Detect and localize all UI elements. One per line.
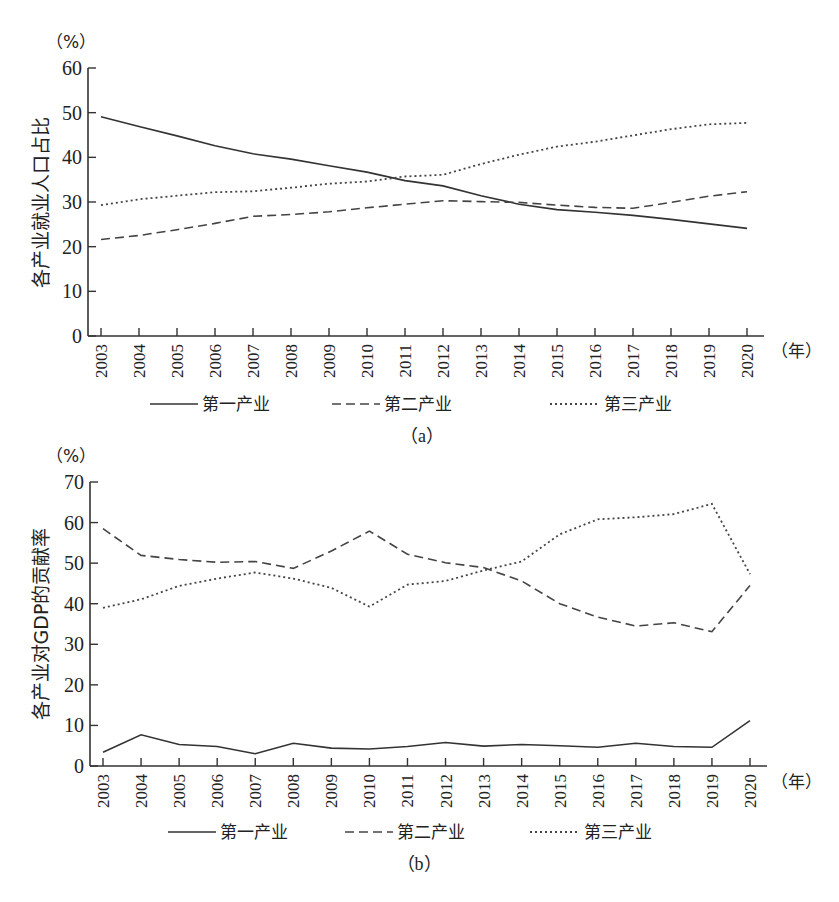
x-tick-label: 2008 xyxy=(284,774,303,808)
x-tick-label: 2007 xyxy=(244,344,263,379)
x-tick-label: 2017 xyxy=(624,344,643,379)
x-tick-label: 2013 xyxy=(475,774,494,808)
legend-label: 第二产业 xyxy=(384,394,452,414)
x-unit-label-a: （年） xyxy=(771,341,822,361)
legend-b: 第一产业第二产业第三产业 xyxy=(168,822,652,842)
legend-item: 第二产业 xyxy=(332,394,452,414)
x-tick-label: 2006 xyxy=(206,344,225,378)
x-tick-label: 2020 xyxy=(738,344,757,378)
legend-a: 第一产业第二产业第三产业 xyxy=(150,394,672,414)
legend-label: 第一产业 xyxy=(202,394,270,414)
series-line-dotted xyxy=(103,504,750,608)
y-tick-label: 10 xyxy=(62,280,82,302)
series-line-dashed xyxy=(103,529,750,632)
y-tick-label: 0 xyxy=(74,755,84,777)
y-axis-title-b: 各产业对GDP的贡献率 xyxy=(30,528,52,721)
legend-item: 第三产业 xyxy=(530,822,652,842)
y-tick-label: 50 xyxy=(64,552,84,574)
x-tick-label: 2016 xyxy=(586,344,605,378)
x-axis-b: 2003200420052006200720082009201020112012… xyxy=(90,758,767,808)
series-line-solid xyxy=(103,721,750,754)
y-tick-label: 50 xyxy=(62,102,82,124)
legend-item: 第一产业 xyxy=(168,822,288,842)
y-unit-label-b: （%） xyxy=(46,446,96,466)
chart-a-employment-share: （%） 0102030405060 2003200420052006200720… xyxy=(30,32,822,446)
legend-item: 第三产业 xyxy=(550,394,672,414)
x-tick-label: 2014 xyxy=(513,774,532,809)
x-tick-label: 2015 xyxy=(548,344,567,378)
y-tick-label: 30 xyxy=(64,633,84,655)
x-tick-label: 2020 xyxy=(741,774,760,808)
x-tick-label: 2018 xyxy=(665,774,684,808)
x-tick-label: 2018 xyxy=(662,344,681,378)
y-axis-b: 010203040506070 xyxy=(64,471,98,777)
x-tick-label: 2019 xyxy=(700,344,719,378)
x-tick-label: 2003 xyxy=(94,774,113,808)
y-tick-label: 10 xyxy=(64,714,84,736)
y-tick-label: 20 xyxy=(62,236,82,258)
y-unit-label-a: （%） xyxy=(46,32,96,52)
x-tick-label: 2007 xyxy=(246,774,265,809)
y-tick-label: 30 xyxy=(62,191,82,213)
x-tick-label: 2004 xyxy=(132,774,151,809)
x-tick-label: 2017 xyxy=(627,774,646,809)
series-lines-b xyxy=(103,504,750,754)
caption-b: （b） xyxy=(397,854,442,874)
y-axis-a: 0102030405060 xyxy=(62,57,96,347)
x-tick-label: 2010 xyxy=(358,344,377,378)
legend-label: 第二产业 xyxy=(397,822,465,842)
y-tick-label: 40 xyxy=(62,146,82,168)
x-tick-label: 2010 xyxy=(360,774,379,808)
x-tick-label: 2012 xyxy=(434,344,453,378)
x-tick-label: 2005 xyxy=(168,344,187,378)
series-line-dotted xyxy=(101,123,747,205)
legend-item: 第一产业 xyxy=(150,394,270,414)
caption-a: （a） xyxy=(400,426,444,446)
legend-item: 第二产业 xyxy=(345,822,465,842)
x-tick-label: 2016 xyxy=(589,774,608,808)
legend-label: 第三产业 xyxy=(604,394,672,414)
x-tick-label: 2011 xyxy=(398,774,417,807)
x-tick-label: 2004 xyxy=(130,344,149,379)
x-tick-label: 2014 xyxy=(510,344,529,379)
y-tick-label: 20 xyxy=(64,674,84,696)
x-tick-label: 2019 xyxy=(703,774,722,808)
x-tick-label: 2008 xyxy=(282,344,301,378)
y-tick-label: 0 xyxy=(72,325,82,347)
x-unit-label-b: （年） xyxy=(771,772,822,792)
x-tick-label: 2012 xyxy=(437,774,456,808)
legend-label: 第三产业 xyxy=(584,822,652,842)
series-line-dashed xyxy=(101,192,747,240)
x-tick-label: 2006 xyxy=(208,774,227,808)
x-tick-label: 2015 xyxy=(551,774,570,808)
x-axis-a: 2003200420052006200720082009201020112012… xyxy=(88,328,764,378)
x-tick-label: 2003 xyxy=(92,344,111,378)
y-tick-label: 60 xyxy=(62,57,82,79)
legend-label: 第一产业 xyxy=(220,822,288,842)
chart-b-gdp-contribution: （%） 010203040506070 20032004200520062007… xyxy=(30,446,822,874)
y-tick-label: 60 xyxy=(64,512,84,534)
x-tick-label: 2013 xyxy=(472,344,491,378)
x-tick-label: 2011 xyxy=(396,344,415,377)
figure: （%） 0102030405060 2003200420052006200720… xyxy=(0,0,839,902)
x-tick-label: 2009 xyxy=(322,774,341,808)
series-lines-a xyxy=(101,117,747,240)
y-axis-title-a: 各产业就业人口占比 xyxy=(30,117,52,288)
x-tick-label: 2005 xyxy=(170,774,189,808)
x-tick-label: 2009 xyxy=(320,344,339,378)
y-tick-label: 70 xyxy=(64,471,84,493)
y-tick-label: 40 xyxy=(64,593,84,615)
